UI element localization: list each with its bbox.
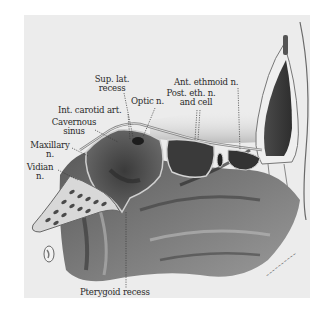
label-pterygoid-recess: Pterygoid recess [80, 288, 150, 297]
label-ant-ethmoid-n: Ant. ethmoid n. [174, 78, 238, 87]
label-line: Ant. ethmoid n. [174, 78, 238, 87]
optic-recess [132, 137, 144, 145]
label-line: sinus [48, 127, 100, 136]
label-line: n. [22, 172, 58, 181]
label-line: Pterygoid recess [80, 288, 150, 297]
post-ethmoid-cell [167, 140, 215, 178]
label-line: n. [26, 150, 74, 159]
label-line: and cell [162, 98, 220, 107]
label-line: Int. carotid art. [58, 106, 122, 115]
label-post-eth-n: Post. eth. n. and cell [162, 89, 220, 107]
label-sup-lat-recess: Sup. lat. recess [92, 75, 132, 93]
label-optic-n: Optic n. [131, 97, 164, 106]
label-maxillary-n: Maxillary n. [26, 141, 74, 159]
label-int-carotid-art: Int. carotid art. [58, 106, 122, 115]
label-line: recess [92, 84, 132, 93]
label-cavernous-sinus: Cavernous sinus [48, 118, 100, 136]
label-line: Optic n. [131, 97, 164, 106]
label-vidian-n: Vidian n. [22, 163, 58, 181]
